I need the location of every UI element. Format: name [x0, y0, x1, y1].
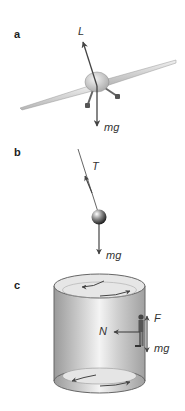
weight-label-c: mg: [154, 342, 169, 354]
airplane-figure: [20, 60, 176, 110]
panel-label-a: a: [14, 28, 20, 40]
friction-label: F: [154, 312, 161, 324]
weight-label-a: mg: [104, 121, 119, 133]
pendulum-string: [78, 149, 98, 212]
tension-label: T: [92, 160, 99, 172]
tension-arrow: [85, 176, 92, 193]
normal-force-label: N: [99, 325, 107, 337]
panel-label-b: b: [14, 146, 21, 158]
panel-label-c: c: [14, 279, 20, 291]
lift-label: L: [78, 25, 84, 37]
pendulum-bob: [92, 210, 107, 225]
weight-label-b: mg: [106, 249, 121, 261]
